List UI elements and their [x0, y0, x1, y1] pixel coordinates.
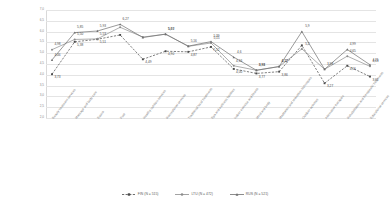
- data-point-label: 4,16: [236, 60, 242, 63]
- data-point-label: 6,27: [123, 19, 129, 22]
- data-point-label: 3,93: [259, 64, 265, 67]
- data-point-label: 5,51: [100, 42, 106, 45]
- y-axis-tick-label: 4,5: [14, 62, 44, 65]
- legend-item-0[interactable]: FIN (N = 515): [122, 192, 159, 197]
- data-point-label: 5,53: [100, 33, 106, 36]
- data-point-label: 5,93: [100, 25, 106, 28]
- data-point-label: 5,85: [77, 27, 83, 30]
- data-point-label: 4,87: [191, 54, 197, 57]
- data-point-label: 4,21: [372, 59, 378, 62]
- data-point-label: 5,50: [77, 34, 83, 37]
- y-axis-tick-label: 5,0: [14, 52, 44, 55]
- plot-area: 7,06,56,05,55,04,54,03,53,02,52,0 3,735,…: [46, 10, 376, 118]
- data-point-marker: [346, 48, 348, 50]
- data-point-label: 3,86: [282, 74, 288, 77]
- data-point-label: 4,16: [350, 68, 356, 71]
- data-point-label: 4,49: [145, 62, 151, 65]
- data-point-marker: [346, 65, 348, 67]
- legend-item-2[interactable]: RUS (N = 521): [230, 192, 268, 197]
- y-axis-tick-label: 5,5: [14, 41, 44, 44]
- data-point-label: 4,99: [350, 44, 356, 47]
- y-axis-tick-label: 4,0: [14, 73, 44, 76]
- data-point-label: 3,77: [259, 76, 265, 79]
- data-point-marker: [119, 34, 121, 36]
- data-point-marker: [324, 82, 326, 84]
- data-point-marker: [346, 55, 348, 57]
- data-point-label: 4,6: [237, 51, 241, 54]
- data-point-label: 5,9: [305, 26, 309, 29]
- data-point-marker: [210, 46, 212, 48]
- y-axis-tick-label: 2,5: [14, 106, 44, 109]
- data-point-marker: [51, 73, 53, 75]
- data-point-marker: [301, 30, 303, 32]
- data-point-marker: [142, 58, 144, 60]
- data-point-label: 3,27: [327, 86, 333, 89]
- data-point-marker: [165, 50, 167, 52]
- legend-item-1[interactable]: LTU (N = 472): [175, 192, 212, 197]
- data-point-label: 3,98: [327, 63, 333, 66]
- data-point-marker: [301, 44, 303, 46]
- y-axis-tick-label: 7,0: [14, 8, 44, 11]
- data-point-label: 5,77: [168, 28, 174, 31]
- y-axis-tick-label: 6,0: [14, 30, 44, 33]
- data-point-marker: [51, 49, 53, 51]
- data-point-label: 4,90: [168, 54, 174, 57]
- y-axis-tick-label: 3,5: [14, 84, 44, 87]
- legend-label: LTU (N = 472): [191, 193, 212, 196]
- legend-marker-icon: [122, 192, 136, 197]
- data-point-label: 3,73: [54, 77, 60, 80]
- legend-label: FIN (N = 515): [138, 193, 159, 196]
- legend-marker-icon: [230, 192, 244, 197]
- data-point-label: 4,46: [54, 54, 60, 57]
- chart-legend: FIN (N = 515)LTU (N = 472)RUS (N = 521): [0, 192, 390, 197]
- data-point-marker: [119, 26, 121, 28]
- data-point-label: 4,00: [236, 71, 242, 74]
- y-axis-tick-label: 2,0: [14, 116, 44, 119]
- data-point-marker: [187, 51, 189, 53]
- legend-label: RUS (N = 521): [246, 193, 268, 196]
- data-point-marker: [74, 41, 76, 43]
- data-point-label: 4,65: [350, 50, 356, 53]
- data-point-label: 5,12: [213, 50, 219, 53]
- data-point-marker: [301, 48, 303, 50]
- data-point-marker: [369, 76, 371, 78]
- y-axis-tick-label: 3,0: [14, 95, 44, 98]
- data-point-marker: [96, 38, 98, 40]
- data-point-label: 5,16: [191, 40, 197, 43]
- data-point-label: 4,98: [54, 44, 60, 47]
- data-point-label: 5,2: [305, 43, 309, 46]
- data-point-marker: [233, 68, 235, 70]
- data-point-label: 5,38: [77, 44, 83, 47]
- line-chart: 7,06,56,05,55,04,54,03,53,02,52,0 3,735,…: [0, 0, 390, 210]
- data-point-label: 4,12: [282, 61, 288, 64]
- data-point-marker: [255, 72, 257, 74]
- data-point-marker: [74, 38, 76, 40]
- data-point-label: 5,39: [213, 36, 219, 39]
- data-point-marker: [233, 65, 235, 67]
- data-point-marker: [278, 71, 280, 73]
- y-axis-tick-label: 6,5: [14, 19, 44, 22]
- x-axis-labels: Beauty treatment servicesMassage and bod…: [46, 118, 376, 190]
- legend-marker-icon: [175, 192, 189, 197]
